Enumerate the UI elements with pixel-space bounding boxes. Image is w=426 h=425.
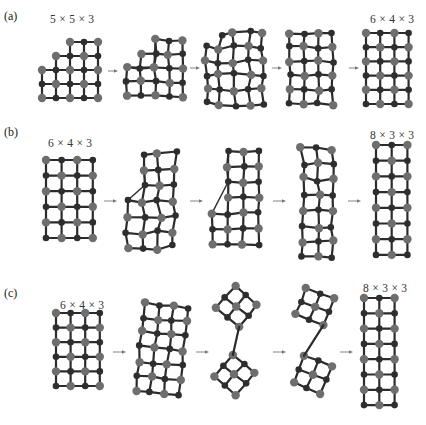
- lattice-node: [286, 43, 293, 50]
- lattice-node: [141, 298, 149, 306]
- lattice-node: [96, 323, 104, 331]
- lattice-node: [150, 343, 158, 351]
- lattice-node: [73, 187, 81, 195]
- lattice-node: [361, 341, 368, 348]
- lattice-node: [53, 383, 60, 390]
- lattice-node: [231, 70, 238, 77]
- lattice-node: [362, 29, 370, 37]
- lattice-node: [81, 95, 88, 102]
- lattice-node: [298, 299, 305, 306]
- lattice-node: [328, 71, 336, 79]
- stage-2: [123, 35, 188, 102]
- lattice-node: [247, 28, 254, 35]
- transition-arrow-icon: [196, 350, 209, 354]
- lattice-node: [52, 367, 60, 375]
- lattice-node: [390, 57, 398, 65]
- lattice-node: [373, 157, 380, 164]
- lattice-node: [301, 162, 308, 169]
- lattice-node: [153, 197, 160, 204]
- bridge-bond: [233, 327, 239, 355]
- bridge-bond: [304, 325, 324, 356]
- lattice-node: [247, 71, 255, 79]
- lattice-node: [372, 204, 380, 212]
- stage-4: [285, 29, 337, 109]
- lattice-node: [151, 35, 159, 43]
- lattice-node: [303, 385, 310, 392]
- lattice-node: [74, 235, 81, 242]
- lattice-node: [286, 100, 293, 107]
- lattice-node: [136, 342, 143, 349]
- lattice-node: [168, 317, 175, 324]
- lattice-node: [372, 235, 380, 243]
- lattice-node: [154, 330, 161, 337]
- stage-4: [296, 143, 338, 261]
- lattice-node: [329, 192, 336, 199]
- lattice-node: [328, 362, 336, 370]
- stage-2: [122, 148, 180, 254]
- lattice-node: [162, 376, 169, 383]
- lattice-node: [208, 240, 216, 248]
- lattice-node: [82, 354, 89, 361]
- lattice-node: [404, 220, 411, 227]
- lattice-node: [388, 142, 395, 149]
- lattice-node: [53, 354, 60, 361]
- lattice-node: [73, 218, 81, 226]
- lattice-node: [317, 290, 324, 297]
- lattice-node: [135, 358, 143, 366]
- lattice-node: [123, 91, 131, 99]
- lattice-node: [242, 292, 249, 299]
- lattice-node: [360, 294, 368, 302]
- lattice-node: [388, 205, 395, 212]
- lattice-node: [286, 85, 294, 93]
- lattice-node: [388, 188, 396, 196]
- lattice-node: [228, 28, 236, 36]
- lattice-node: [287, 71, 294, 78]
- lattice-node: [373, 220, 380, 227]
- lattice-node: [230, 370, 238, 378]
- stage-5: [372, 141, 412, 259]
- lattice-node: [222, 382, 229, 389]
- lattice-node: [208, 209, 216, 217]
- lattice-node: [391, 310, 398, 317]
- lattice-node: [214, 45, 222, 53]
- lattice-node: [162, 360, 170, 368]
- lattice-node: [67, 368, 74, 375]
- lattice-node: [306, 316, 313, 323]
- lattice-node: [52, 338, 60, 346]
- lattice-node: [257, 84, 265, 92]
- lattice-node: [53, 95, 60, 102]
- lattice-node: [223, 225, 231, 233]
- lattice-node: [314, 158, 322, 166]
- transition-arrow-icon: [108, 69, 118, 73]
- lattice-node: [391, 44, 398, 51]
- lattice-node: [67, 53, 74, 60]
- lattice-node: [230, 87, 238, 95]
- lattice-node: [177, 376, 185, 384]
- lattice-node: [148, 372, 156, 380]
- lattice-node: [315, 357, 322, 364]
- lattice-node: [66, 323, 74, 331]
- lattice-node: [376, 387, 383, 394]
- lattice-node: [166, 79, 174, 87]
- lattice-node: [57, 171, 65, 179]
- lattice-node: [221, 294, 228, 301]
- lattice-node: [94, 66, 102, 74]
- lattice-node: [89, 203, 97, 211]
- lattice-node: [328, 224, 335, 231]
- lattice-node: [255, 179, 262, 186]
- lattice-node: [123, 78, 130, 85]
- lattice-node: [122, 230, 129, 237]
- lattice-node: [301, 86, 308, 93]
- lattice-node: [179, 50, 186, 57]
- lattice-node: [154, 227, 161, 234]
- lattice-node: [390, 386, 398, 394]
- stage-5: [362, 29, 413, 108]
- lattice-node: [204, 73, 211, 80]
- lattice-node: [314, 100, 321, 107]
- lattice-node: [376, 43, 384, 51]
- stage-2: [132, 298, 191, 398]
- transition-arrow-icon: [273, 350, 286, 354]
- lattice-node: [137, 50, 145, 58]
- lattice-node: [133, 372, 140, 379]
- lattice-node: [328, 254, 335, 261]
